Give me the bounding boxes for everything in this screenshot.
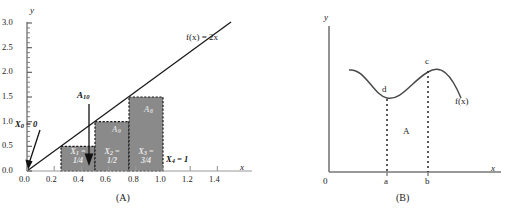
function-label-a: f(x) = 2x xyxy=(186,33,218,42)
x-tick-label: 1.2 xyxy=(182,175,193,184)
y-tick-label: 0.5 xyxy=(2,141,13,150)
rect-x2-label: X2 =1/2 xyxy=(95,148,129,165)
x-tick-label: 0.8 xyxy=(128,175,139,184)
panel-a: 3.0 2.5 2.0 1.5 1.0 0.5 0.0 0.0 0.2 0.4 … xyxy=(0,0,262,216)
area-label-a9: A9 xyxy=(112,125,121,135)
a10-pointer-label: A10 xyxy=(77,91,90,101)
x-tick-label-a: a xyxy=(384,177,388,186)
x-tick-label-b: b xyxy=(425,177,430,186)
y-tick-label: 3.0 xyxy=(2,18,13,27)
origin-tick-label-b: 0 xyxy=(323,177,328,186)
y-major-ticks-a xyxy=(27,23,32,171)
area-region-label: A xyxy=(403,127,410,136)
x-axis-label-b: x xyxy=(491,164,495,173)
figure-container: 3.0 2.5 2.0 1.5 1.0 0.5 0.0 0.0 0.2 0.4 … xyxy=(0,0,517,216)
rect-x1-label: X1 =1/4 xyxy=(61,148,95,165)
area-label-a8: A8 xyxy=(144,105,153,115)
rect-x3-label: X3 =3/4 xyxy=(129,148,163,165)
y-tick-label: 0.0 xyxy=(2,166,13,175)
x-tick-label: 0.6 xyxy=(100,175,111,184)
x0-label: X0 = 0 xyxy=(15,120,37,130)
x4-label: X4 = 1 xyxy=(166,155,188,165)
x-tick-label: 1.0 xyxy=(155,175,166,184)
y-axis-label: y xyxy=(30,6,34,15)
y-axis-label-b: y xyxy=(324,13,328,22)
y-tick-label: 1.5 xyxy=(2,92,13,101)
function-label-b: f(x) xyxy=(455,97,469,106)
x-tick-label: 0.2 xyxy=(46,175,57,184)
y-tick-label: 2.5 xyxy=(2,43,13,52)
x-tick-label: 0.0 xyxy=(19,175,30,184)
panel-b: y x 0 a b d c f(x) A (B) xyxy=(255,0,517,216)
point-label-c: c xyxy=(425,57,429,66)
caption-b: (B) xyxy=(396,193,409,203)
x-tick-label: 0.4 xyxy=(73,175,84,184)
x-tick-label: 1.4 xyxy=(209,175,220,184)
y-tick-label: 2.0 xyxy=(2,67,13,76)
y-tick-label: 1.0 xyxy=(2,117,13,126)
x-axis-label: x xyxy=(240,163,244,172)
caption-a: (A) xyxy=(116,193,130,203)
function-curve-b xyxy=(349,69,461,98)
point-label-d: d xyxy=(382,85,387,94)
